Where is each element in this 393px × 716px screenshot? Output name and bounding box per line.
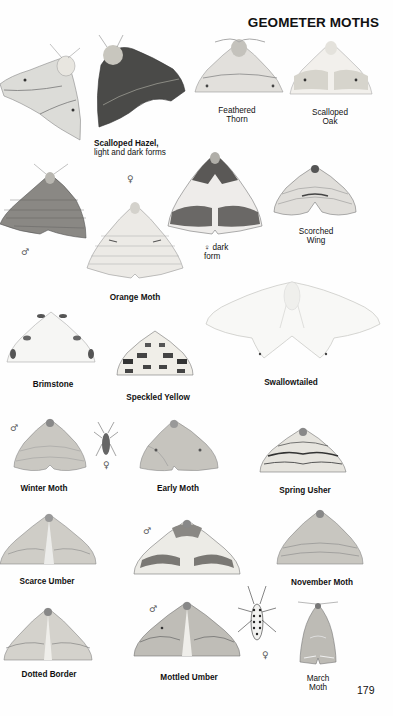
species-label-brimstone: Brimstone [25, 380, 81, 389]
dotted-border-illustration [2, 604, 94, 666]
species-label-dotted-border: Dotted Border [20, 670, 78, 679]
swallowtailed-illustration [202, 272, 384, 362]
female-symbol: ♀ [127, 174, 134, 184]
species-name: Spring Usher [279, 486, 330, 495]
brimstone-illustration [5, 306, 98, 366]
field-guide-page: GEOMETER MOTHS Scalloped Hazel, light an… [0, 0, 393, 716]
female-symbol: ♀ [262, 650, 269, 660]
scorched-wing-illustration [272, 160, 358, 220]
species-name-line1: March [300, 674, 336, 683]
page-number: 179 [357, 684, 375, 696]
orange-moth-dark-form-illustration [166, 150, 264, 234]
winter-moth-male-illustration [12, 415, 88, 473]
page-title: GEOMETER MOTHS [248, 15, 379, 30]
species-name-line1: Scalloped [302, 108, 358, 117]
mottled-umber-illustration [132, 598, 242, 664]
species-label-spring-usher: Spring Usher [275, 486, 335, 495]
early-moth-illustration [138, 416, 220, 474]
species-name-line2: Thorn [209, 115, 265, 124]
species-name-line2: Moth [300, 683, 336, 692]
species-name-line1: Scorched [291, 227, 341, 236]
species-label-mottled-umber: Mottled Umber [152, 673, 226, 682]
species-label-feathered-thorn: Feathered Thorn [209, 106, 265, 124]
female-symbol: ♀ [204, 243, 210, 252]
orange-moth-male-illustration [0, 170, 90, 240]
form-note-line2: form [204, 252, 228, 261]
mottled-umber-male-illustration [132, 516, 242, 582]
species-label-march-moth: March Moth [300, 674, 336, 692]
form-note: dark [212, 243, 228, 252]
male-symbol: ♂ [21, 247, 29, 257]
species-label-orange-moth: Orange Moth [100, 293, 170, 302]
species-label-scarce-umber: Scarce Umber [17, 577, 77, 586]
species-name-line1: Feathered [209, 106, 265, 115]
species-label-scalloped-hazel: Scalloped Hazel, light and dark forms [94, 139, 166, 157]
speckled-yellow-illustration [115, 327, 195, 381]
species-label-swallowtailed: Swallowtailed [251, 378, 331, 387]
species-label-scorched-wing: Scorched Wing [291, 227, 341, 245]
species-name: Dotted Border [21, 670, 76, 679]
mottled-umber-female-illustration [232, 586, 282, 652]
winter-moth-female-illustration [92, 422, 120, 462]
november-moth-illustration [275, 506, 365, 570]
spring-usher-illustration [258, 424, 348, 476]
march-moth-illustration [296, 598, 340, 668]
species-name: Scalloped Hazel, [94, 139, 159, 148]
species-name: Brimstone [33, 380, 74, 389]
species-name: Swallowtailed [264, 378, 318, 387]
feathered-thorn-illustration [193, 34, 285, 96]
scalloped-oak-illustration [288, 38, 374, 100]
scarce-umber-illustration [0, 510, 98, 570]
female-symbol: ♀ [103, 460, 110, 470]
species-name: November Moth [291, 578, 353, 587]
scalloped-hazel-dark-illustration [93, 35, 188, 130]
species-name: Early Moth [157, 484, 199, 493]
species-label-early-moth: Early Moth [150, 484, 206, 493]
species-label-november-moth: November Moth [286, 578, 358, 587]
species-name-line2: Wing [291, 236, 341, 245]
species-label-speckled-yellow: Speckled Yellow [120, 393, 196, 402]
species-label-scalloped-oak: Scalloped Oak [302, 108, 358, 126]
species-name: Mottled Umber [160, 673, 217, 682]
species-label-winter-moth: Winter Moth [16, 484, 72, 493]
species-note: light and dark forms [94, 148, 166, 157]
species-name: Orange Moth [110, 293, 161, 302]
species-label-dark-form: ♀ dark form [204, 243, 228, 261]
species-name: Winter Moth [20, 484, 67, 493]
species-name-line2: Oak [302, 117, 358, 126]
scalloped-hazel-light-illustration [0, 40, 88, 140]
species-name: Scarce Umber [19, 577, 74, 586]
species-name: Speckled Yellow [126, 393, 190, 402]
